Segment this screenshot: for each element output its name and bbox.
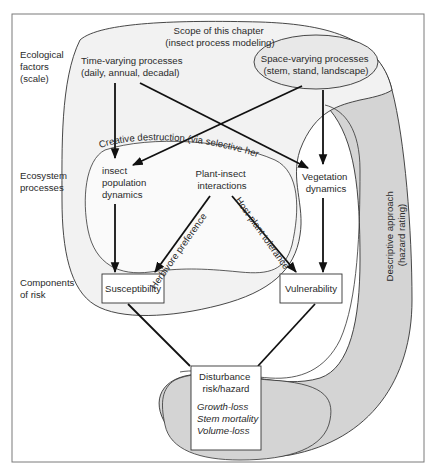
ecosystem-inner-region — [85, 141, 296, 273]
ecosystem-processes-label: Ecosystem processes — [20, 170, 70, 193]
disturbance-label: Disturbance risk/hazard — [199, 371, 253, 394]
space-varying-label: Space-varying processes (stem, stand, la… — [261, 53, 371, 76]
time-varying-label: Time-varying processes (daily, annual, d… — [81, 55, 185, 78]
risk-framework-diagram: Ecological factors (scale) Ecosystem pro… — [0, 0, 437, 476]
vegetation-dynamics-label: Vegetation dynamics — [302, 171, 350, 194]
scope-label: Scope of this chapter (insect process mo… — [165, 25, 274, 48]
vulnerability-label: Vulnerability — [285, 283, 337, 294]
plant-insect-label: Plant-insect interactions — [196, 168, 249, 191]
susceptibility-label: Susceptibility — [105, 283, 161, 294]
